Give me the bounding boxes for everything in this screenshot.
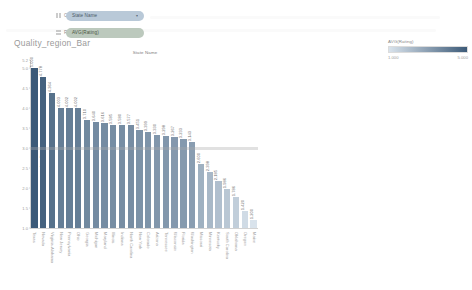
bar[interactable]: 2.600 [198, 164, 204, 228]
x-axis-tick-label: New Jersey [58, 232, 63, 253]
bar-cell[interactable]: 4.002 [65, 60, 74, 228]
x-axis-tick[interactable]: Georgia [83, 230, 92, 290]
bar-cell[interactable]: 3.585 [109, 60, 118, 228]
bar-cell[interactable]: 4.002 [74, 60, 83, 228]
x-axis-tick[interactable]: Kentucky [214, 230, 223, 290]
bar-cell[interactable]: 3.580 [118, 60, 127, 228]
bar-value-label: 3.577 [126, 114, 131, 124]
bar-cell[interactable]: 3.330 [153, 60, 162, 228]
bar[interactable]: 1.200 [250, 220, 256, 228]
bar-cell[interactable]: 1.200 [249, 60, 258, 228]
x-axis-tick[interactable]: New York [135, 230, 144, 290]
bar-cell[interactable]: 5.000 [30, 60, 39, 228]
bar[interactable]: 1.986 [224, 189, 230, 228]
bar-value-label: 4.778 [38, 66, 43, 76]
x-axis-tick[interactable]: South Carolina [223, 230, 232, 290]
y-axis-tick-label: 3.5 [22, 126, 28, 131]
bar[interactable]: 4.002 [66, 108, 72, 228]
color-legend-ramp [388, 46, 468, 53]
bar-cell[interactable]: 3.298 [161, 60, 170, 228]
bar[interactable]: 3.267 [171, 137, 177, 228]
bar-cell[interactable]: 2.600 [197, 60, 206, 228]
bar[interactable]: 3.585 [110, 125, 116, 228]
x-axis-tick[interactable]: Florida [179, 230, 188, 290]
x-axis-tick[interactable]: Illinois [109, 230, 118, 290]
y-axis-tick-label: 1.5 [22, 206, 28, 211]
bar-cell[interactable]: 3.233 [179, 60, 188, 228]
bar[interactable]: 2.398 [207, 172, 213, 228]
pill-avg-rating[interactable]: AVG(Rating) [66, 28, 144, 38]
x-axis-tick[interactable]: Wisconsin [170, 230, 179, 290]
x-axis-tick[interactable]: Pennsylvania [65, 230, 74, 290]
x-axis-tick[interactable]: Oregon [240, 230, 249, 290]
x-axis-tick[interactable]: Maryland [100, 230, 109, 290]
x-axis-tick[interactable]: Texas [30, 230, 39, 290]
bar-cell[interactable]: 4.003 [56, 60, 65, 228]
bar-cell[interactable]: 1.420 [240, 60, 249, 228]
x-axis-tick-label: Nevada [41, 232, 46, 246]
x-axis-tick-label: Illinois [111, 232, 116, 243]
x-axis-tick-label: Oregon [242, 232, 247, 246]
bar-value-label: 3.143 [187, 131, 192, 141]
x-axis-tick-label: Colorado [146, 232, 151, 249]
bar-cell[interactable]: 3.640 [91, 60, 100, 228]
bar-cell[interactable]: 4.364 [48, 60, 57, 228]
bar[interactable]: 3.143 [189, 142, 195, 228]
tableau-worksheet: Columns State Name ▾ Rows AVG(Rating) Qu… [0, 0, 472, 290]
bar[interactable]: 4.778 [40, 77, 46, 228]
columns-shelf[interactable]: Columns State Name ▾ [0, 9, 250, 22]
bar[interactable]: 3.451 [136, 130, 142, 228]
bar[interactable]: 3.577 [128, 125, 134, 228]
x-axis-tick[interactable]: Ohio [74, 230, 83, 290]
bar-cell[interactable]: 2.185 [214, 60, 223, 228]
x-axis-tick[interactable]: Maine [249, 230, 258, 290]
bar-cell[interactable]: 3.577 [126, 60, 135, 228]
x-axis-tick-label: Indiana [120, 232, 125, 245]
pill-state-name[interactable]: State Name ▾ [66, 11, 144, 21]
bar-cell[interactable]: 3.267 [170, 60, 179, 228]
x-axis-tick[interactable]: Tennessee [161, 230, 170, 290]
y-axis-tick-label: 2.5 [22, 166, 28, 171]
bar[interactable]: 3.580 [119, 125, 125, 228]
y-axis-tick-mark [29, 60, 31, 61]
x-axis-tick-label: Missouri [198, 232, 203, 247]
bar-value-label: 1.986 [222, 177, 227, 187]
bar-cell[interactable]: 3.143 [188, 60, 197, 228]
bar[interactable]: 1.420 [242, 211, 248, 228]
x-axis-tick[interactable]: Indiana [118, 230, 127, 290]
bar[interactable]: 4.002 [75, 108, 81, 228]
bar[interactable]: 4.003 [58, 108, 64, 228]
x-axis-tick[interactable]: Oklahoma [232, 230, 241, 290]
bar-cell[interactable]: 3.451 [135, 60, 144, 228]
bar[interactable]: 4.364 [49, 93, 55, 228]
x-axis-tick-label: Ohio [76, 232, 81, 241]
bar-cell[interactable]: 1.986 [223, 60, 232, 228]
x-axis-tick[interactable]: Virginia-Alabama [48, 230, 57, 290]
bar-cell[interactable]: 3.616 [100, 60, 109, 228]
x-axis-tick[interactable]: North Carolina [126, 230, 135, 290]
bar[interactable]: 2.185 [215, 181, 221, 228]
chevron-down-icon[interactable]: ▾ [136, 13, 138, 18]
x-axis-tick[interactable]: Washington [188, 230, 197, 290]
y-axis-tick-label: 3.0 [22, 146, 28, 151]
bar-value-label: 3.399 [143, 121, 148, 131]
x-axis-tick[interactable]: Colorado [144, 230, 153, 290]
bar[interactable]: 3.640 [93, 122, 99, 228]
x-axis-tick[interactable]: Minnesota [205, 230, 214, 290]
bar-value-label: 3.233 [178, 128, 183, 138]
x-axis-tick[interactable]: Nevada [39, 230, 48, 290]
bar-cell[interactable]: 3.710 [83, 60, 92, 228]
color-legend[interactable]: AVG(Rating) 1.000 5.000 [388, 39, 468, 60]
bar-cell[interactable]: 2.398 [205, 60, 214, 228]
color-legend-min: 1.000 [388, 55, 398, 60]
y-axis-tick-label: 1.0 [22, 226, 28, 231]
x-axis-tick[interactable]: Arizona [153, 230, 162, 290]
x-axis-tick[interactable]: New Jersey [56, 230, 65, 290]
x-axis-tick[interactable]: Missouri [197, 230, 206, 290]
bar[interactable]: 3.710 [84, 120, 90, 228]
bar[interactable]: 1.786 [233, 197, 239, 228]
bar[interactable]: 3.616 [101, 123, 107, 228]
bar[interactable]: 3.233 [180, 139, 186, 228]
bar-cell[interactable]: 3.399 [144, 60, 153, 228]
x-axis-tick[interactable]: Michigan [91, 230, 100, 290]
